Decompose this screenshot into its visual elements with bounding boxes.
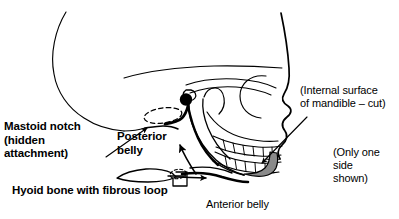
mastoid-process bbox=[145, 126, 178, 129]
leader-anterior-belly-arrow bbox=[176, 177, 206, 178]
label-hyoid-bone-with-fibrous-loop: Hyoid bone with fibrous loop bbox=[12, 184, 168, 198]
coronoid-process bbox=[204, 88, 224, 114]
cranial-vault bbox=[53, 12, 124, 131]
label-mastoid-notch: Mastoid notch (hidden attachment) bbox=[4, 120, 81, 161]
orbit bbox=[240, 76, 266, 118]
maxilla-body bbox=[207, 112, 278, 141]
zygomatic-arch-lower bbox=[190, 87, 271, 95]
label-anterior-belly: Anterior belly bbox=[206, 198, 269, 211]
label-posterior-belly: Posterior belly bbox=[117, 130, 167, 157]
leader-internal-surface bbox=[262, 117, 307, 163]
styloid-origin-marker bbox=[180, 93, 192, 105]
label-only-one-side-shown: (Only one side shown) bbox=[333, 146, 380, 185]
anatomy-figure: Mastoid notch (hidden attachment) Poster… bbox=[0, 0, 399, 219]
posterior-belly-muscle-lower bbox=[188, 106, 218, 165]
nasal-profile bbox=[278, 13, 291, 159]
label-internal-surface-of-mandible: (Internal surface of mandible – cut) bbox=[300, 84, 386, 110]
hyoid-bone bbox=[117, 169, 176, 182]
